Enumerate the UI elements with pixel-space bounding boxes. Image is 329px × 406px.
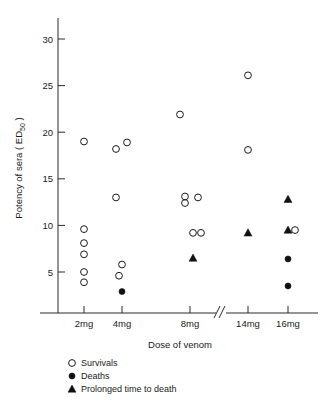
x-tick-label: 2mg — [75, 318, 93, 329]
y-tick-label: 20 — [42, 127, 53, 138]
data-point-open-circle — [182, 193, 189, 200]
legend-marker-open-circle — [69, 360, 76, 367]
y-tick-label: 30 — [42, 34, 53, 45]
data-point-open-circle — [198, 229, 205, 236]
data-point-open-circle — [81, 226, 88, 233]
y-axis-title: Potency of sera ( ED50 ) — [13, 117, 26, 218]
legend-label: Prolonged time to death — [81, 384, 177, 394]
scatter-plot: 51015202530 2mg4mg8mg14mg16mg Potency of… — [0, 0, 329, 406]
data-point-open-circle — [81, 240, 88, 247]
data-point-filled-circle — [285, 256, 291, 262]
y-axis-tick-labels: 51015202530 — [42, 34, 53, 278]
data-point-filled-triangle — [284, 226, 292, 233]
data-point-open-circle — [245, 147, 252, 154]
data-point-filled-circle — [285, 283, 291, 289]
data-point-filled-circle — [119, 289, 125, 295]
x-tick-label: 14mg — [236, 318, 260, 329]
legend-marker-filled-circle — [69, 373, 75, 379]
data-point-open-circle — [245, 72, 252, 79]
data-point-filled-triangle — [189, 254, 197, 261]
data-points-layer — [81, 72, 299, 295]
legend: SurvivalsDeathsProlonged time to death — [68, 358, 177, 394]
y-tick-label: 10 — [42, 220, 53, 231]
legend-marker-filled-triangle — [68, 385, 76, 392]
x-axis-ticks — [84, 306, 288, 313]
legend-label: Survivals — [81, 358, 118, 368]
x-axis-title: Dose of venom — [148, 339, 212, 350]
svg-text:Potency of sera ( ED50 ): Potency of sera ( ED50 ) — [13, 117, 26, 218]
data-point-open-circle — [177, 111, 184, 118]
axis-break-icon — [214, 306, 225, 318]
data-point-filled-triangle — [284, 195, 292, 202]
x-tick-label: 8mg — [181, 318, 199, 329]
data-point-open-circle — [182, 200, 189, 207]
y-axis-title-tail: ) — [13, 117, 24, 123]
y-axis-ticks — [58, 39, 65, 272]
figure-container: 51015202530 2mg4mg8mg14mg16mg Potency of… — [0, 0, 329, 406]
data-point-open-circle — [116, 272, 123, 279]
data-point-open-circle — [81, 279, 88, 286]
y-tick-label: 25 — [42, 80, 53, 91]
data-point-open-circle — [292, 227, 299, 234]
data-point-open-circle — [113, 146, 120, 153]
y-tick-label: 5 — [48, 267, 53, 278]
data-point-open-circle — [113, 194, 120, 201]
x-axis-tick-labels: 2mg4mg8mg14mg16mg — [75, 318, 300, 329]
data-point-open-circle — [81, 138, 88, 145]
data-point-filled-triangle — [244, 229, 252, 236]
data-point-open-circle — [81, 251, 88, 258]
x-tick-label: 4mg — [113, 318, 131, 329]
data-point-open-circle — [124, 139, 131, 146]
y-axis-title-subscript: 50 — [19, 123, 26, 131]
data-point-open-circle — [195, 194, 202, 201]
legend-label: Deaths — [81, 371, 110, 381]
y-axis-title-main: Potency of sera ( ED — [13, 131, 24, 219]
data-point-open-circle — [190, 229, 197, 236]
data-point-open-circle — [81, 269, 88, 276]
data-point-open-circle — [119, 261, 126, 268]
x-tick-label: 16mg — [276, 318, 300, 329]
y-tick-label: 15 — [42, 173, 53, 184]
